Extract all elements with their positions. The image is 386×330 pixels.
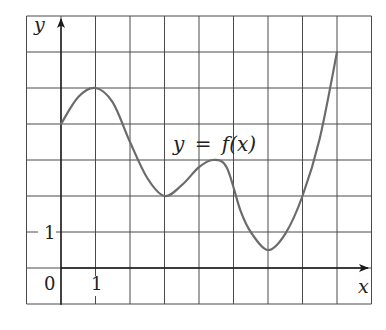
chart: y x 0 1 1 y = f(x) bbox=[0, 0, 386, 330]
x-tick-label-1: 1 bbox=[91, 273, 102, 294]
y-axis-label: y bbox=[33, 13, 45, 35]
curve-label: y = f(x) bbox=[172, 132, 256, 156]
curve-label-y: y bbox=[172, 132, 185, 156]
origin-label: 0 bbox=[44, 273, 55, 294]
curve-label-eq: = bbox=[195, 132, 212, 156]
grid bbox=[27, 16, 372, 304]
x-axis-label: x bbox=[358, 275, 369, 297]
y-tick-label-1: 1 bbox=[44, 222, 55, 243]
curve-label-arg: (x) bbox=[229, 132, 256, 156]
